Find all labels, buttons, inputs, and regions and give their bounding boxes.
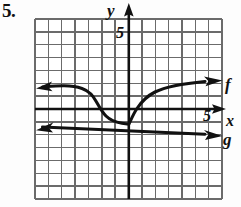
curve-g-label: g [223, 131, 232, 148]
y-axis-label: y [107, 2, 115, 19]
x-axis-tick-label-5: 5 [203, 108, 211, 124]
y-axis-tick-label-5: 5 [116, 25, 124, 41]
graph-figure: 5. [0, 0, 241, 207]
x-axis-label: x [226, 113, 234, 129]
curve-f-label: f [225, 76, 231, 93]
